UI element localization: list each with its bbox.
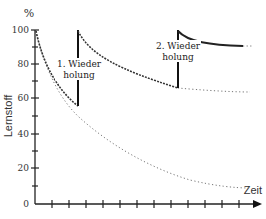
y-tick-label-80: 80 [18,59,30,69]
y-tick-label-100: 100 [12,25,29,35]
y-axis-label: Lernstoff [2,94,14,138]
repetition-2-label-line1: 2. Wieder [156,41,201,51]
y-tick-label-40: 40 [18,129,30,139]
y-unit-label: % [24,7,34,20]
x-axis-label: Zeit [244,184,262,196]
y-tick-label-0: 0 [23,199,29,209]
x-axis-arrow-icon [253,200,262,208]
y-tick-label-20: 20 [18,163,30,173]
y-tick-label-60: 60 [18,93,30,103]
repetition-2-label-line2: holung [162,52,194,62]
repetition-1-label-line2: holung [63,70,95,80]
repetition-1-label-line1: 1. Wieder [57,59,102,69]
curve-after-repetition-1-continuation [178,88,250,92]
forgetting-curve-baseline [36,31,250,188]
forgetting-curve-diagram: 100 80 60 40 20 0 % Lernstoff Zeit 1. Wi… [0,0,266,219]
